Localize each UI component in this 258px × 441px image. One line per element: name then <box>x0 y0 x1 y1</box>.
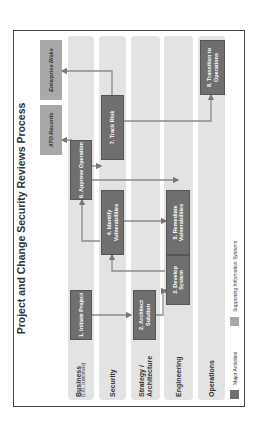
activity-architect-solution: 2. Architect Solution <box>133 290 156 340</box>
legend-supporting-label: Supporting Information Systems <box>232 241 238 312</box>
activity-transition-to-operations: 8. Transition to Operations <box>200 40 225 95</box>
system-enterprise-risks: Enterprise Risks <box>40 40 62 100</box>
activity-initiate-project: 1. Initiate Project <box>70 290 92 340</box>
system-ato-records: ATO Records <box>40 105 62 155</box>
activity-remediate-vulnerabilities: 5. Remediate Vulnerabilities <box>166 190 190 255</box>
activity-track-risk: 7. Track Risk <box>101 95 124 160</box>
legend-major-label: Major Activities <box>232 352 238 385</box>
activity-identify-vulnerabilities: 4. Identify Vulnerabilities <box>101 190 124 255</box>
diagram-canvas: Project and Change Security Reviews Proc… <box>0 0 258 441</box>
activity-approve-operation: 6. Approve Operation <box>70 140 92 200</box>
legend-swatch-supporting <box>230 317 239 326</box>
legend-swatch-major <box>230 390 239 399</box>
activity-develop-system: 3. Develop System <box>166 255 190 305</box>
